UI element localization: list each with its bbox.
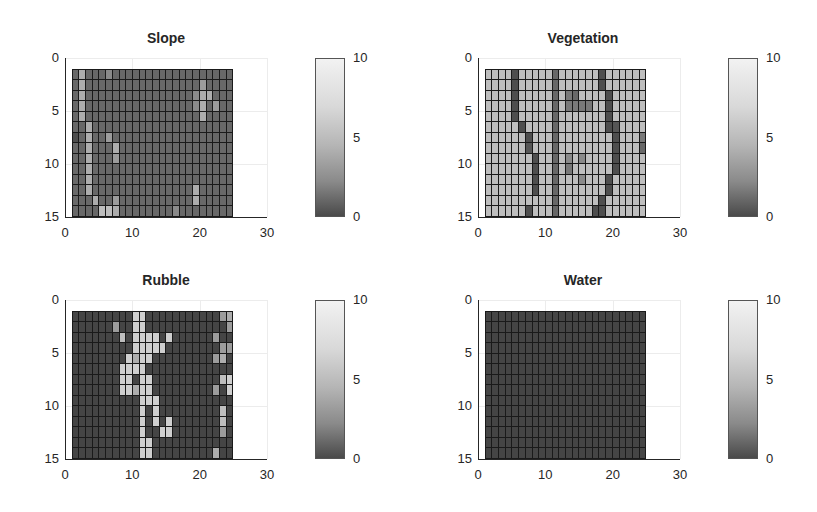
heatmap-cell xyxy=(140,91,146,101)
heatmap-cell xyxy=(626,133,632,143)
heatmap-cell xyxy=(166,385,172,395)
heatmap-cell xyxy=(173,112,179,122)
heatmap-cell xyxy=(512,185,518,195)
heatmap-cell xyxy=(173,343,179,353)
heatmap-cell xyxy=(126,112,132,122)
heatmap-cell xyxy=(213,80,219,90)
heatmap-cell xyxy=(546,101,552,111)
heatmap-cell xyxy=(526,164,532,174)
heatmap-cell xyxy=(133,354,139,364)
heatmap-cell xyxy=(640,112,646,122)
heatmap-cell xyxy=(140,354,146,364)
heatmap-cell xyxy=(566,80,572,90)
heatmap-cell xyxy=(86,375,92,385)
heatmap-cell xyxy=(566,406,572,416)
x-tick-label: 30 xyxy=(670,225,690,240)
heatmap-cell xyxy=(620,143,626,153)
heatmap-cell xyxy=(79,91,85,101)
heatmap-cell xyxy=(512,438,518,448)
heatmap-cell xyxy=(213,396,219,406)
heatmap-cell xyxy=(512,154,518,164)
heatmap-cell xyxy=(113,427,119,437)
x-axis xyxy=(65,217,267,218)
heatmap-cell xyxy=(499,448,505,458)
heatmap-cell xyxy=(120,333,126,343)
heatmap-cell xyxy=(633,154,639,164)
heatmap-cell xyxy=(640,333,646,343)
heatmap-cell xyxy=(566,91,572,101)
heatmap-cell xyxy=(566,185,572,195)
heatmap-cell xyxy=(533,343,539,353)
heatmap-cell xyxy=(227,122,233,132)
heatmap-cell xyxy=(579,175,585,185)
heatmap-cell xyxy=(519,143,525,153)
heatmap-cell xyxy=(180,164,186,174)
heatmap-cell xyxy=(166,143,172,153)
y-tick-label: 10 xyxy=(448,398,472,413)
heatmap-cell xyxy=(620,417,626,427)
heatmap-cell xyxy=(220,375,226,385)
heatmap-vegetation xyxy=(485,69,647,217)
heatmap-cell xyxy=(492,185,498,195)
heatmap-cell xyxy=(553,70,559,80)
heatmap-cell xyxy=(633,185,639,195)
heatmap-cell xyxy=(186,343,192,353)
heatmap-cell xyxy=(106,322,112,332)
heatmap-cell xyxy=(113,385,119,395)
heatmap-cell xyxy=(626,185,632,195)
heatmap-cell xyxy=(519,333,525,343)
heatmap-cell xyxy=(506,385,512,395)
heatmap-cell xyxy=(620,101,626,111)
heatmap-cell xyxy=(606,206,612,216)
heatmap-cell xyxy=(573,333,579,343)
heatmap-cell xyxy=(586,396,592,406)
heatmap-cell xyxy=(486,91,492,101)
heatmap-cell xyxy=(173,427,179,437)
heatmap-cell xyxy=(79,312,85,322)
heatmap-cell xyxy=(499,375,505,385)
heatmap-cell xyxy=(173,312,179,322)
heatmap-cell xyxy=(220,427,226,437)
heatmap-cell xyxy=(79,154,85,164)
heatmap-cell xyxy=(586,438,592,448)
heatmap-cell xyxy=(146,101,152,111)
heatmap-cell xyxy=(93,206,99,216)
heatmap-cell xyxy=(620,396,626,406)
heatmap-cell xyxy=(573,185,579,195)
heatmap-cell xyxy=(573,385,579,395)
heatmap-cell xyxy=(486,101,492,111)
heatmap-cell xyxy=(499,80,505,90)
heatmap-cell xyxy=(506,322,512,332)
heatmap-cell xyxy=(599,143,605,153)
heatmap-cell xyxy=(633,143,639,153)
heatmap-cell xyxy=(207,133,213,143)
heatmap-cell xyxy=(153,406,159,416)
y-tick-label: 15 xyxy=(35,451,59,466)
heatmap-cell xyxy=(86,385,92,395)
heatmap-cell xyxy=(499,438,505,448)
heatmap-cell xyxy=(207,406,213,416)
heatmap-cell xyxy=(180,133,186,143)
heatmap-cell xyxy=(586,112,592,122)
heatmap-cell xyxy=(120,91,126,101)
heatmap-cell xyxy=(86,70,92,80)
heatmap-cell xyxy=(579,333,585,343)
heatmap-cell xyxy=(566,70,572,80)
heatmap-cell xyxy=(626,154,632,164)
heatmap-cell xyxy=(573,364,579,374)
heatmap-cell xyxy=(180,438,186,448)
heatmap-cell xyxy=(526,112,532,122)
heatmap-cell xyxy=(492,101,498,111)
heatmap-cell xyxy=(593,133,599,143)
heatmap-cell xyxy=(492,406,498,416)
heatmap-cell xyxy=(512,375,518,385)
heatmap-cell xyxy=(492,438,498,448)
heatmap-cell xyxy=(566,196,572,206)
heatmap-cell xyxy=(200,101,206,111)
heatmap-cell xyxy=(506,143,512,153)
heatmap-cell xyxy=(106,417,112,427)
heatmap-cell xyxy=(539,396,545,406)
heatmap-cell xyxy=(140,206,146,216)
heatmap-cell xyxy=(166,406,172,416)
heatmap-cell xyxy=(227,175,233,185)
